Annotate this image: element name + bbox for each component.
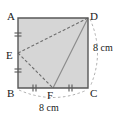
vertex-label-E: E: [6, 50, 13, 61]
dimension-label-right: 8 cm: [93, 43, 113, 53]
vertex-label-F: F: [47, 90, 53, 101]
square-abcd-fill: [18, 18, 88, 88]
vertex-label-D: D: [90, 11, 98, 22]
geometry-canvas: [0, 0, 122, 118]
vertex-label-B: B: [7, 88, 14, 99]
vertex-label-C: C: [90, 88, 97, 99]
dimension-arc-right: [90, 19, 98, 87]
geometry-figure: A B C D E F 8 cm 8 cm: [0, 0, 122, 118]
vertex-label-A: A: [7, 11, 15, 22]
dimension-label-bottom: 8 cm: [39, 103, 59, 113]
